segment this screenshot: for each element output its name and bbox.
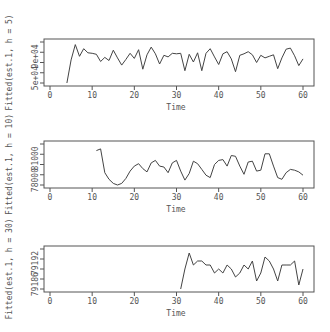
x-tick-label: 10 xyxy=(87,91,97,100)
x-tick-label: 0 xyxy=(48,193,53,202)
y-axis-label: Fitted(est.1, h = 10) xyxy=(5,114,14,215)
fitted-series-line xyxy=(96,149,303,185)
x-axis-label: Time xyxy=(166,205,185,214)
x-tick-label: 30 xyxy=(172,297,182,306)
fitted-series-line xyxy=(67,45,303,83)
plot-frame xyxy=(44,141,314,188)
plot-frame xyxy=(44,39,314,86)
panel-h30: 0102030405060Time7918679192Fitted(est.1,… xyxy=(5,218,314,319)
x-axis-label: Time xyxy=(166,103,185,112)
x-tick-label: 40 xyxy=(214,193,224,202)
y-axis-label: Fitted(est.1, h = 30) xyxy=(5,218,14,319)
x-tick-label: 20 xyxy=(130,91,140,100)
x-tick-label: 60 xyxy=(298,91,308,100)
x-tick-label: 20 xyxy=(130,297,140,306)
x-tick-label: 60 xyxy=(298,297,308,306)
x-tick-label: 60 xyxy=(298,193,308,202)
y-tick-label: 78000 xyxy=(31,168,40,192)
x-tick-label: 20 xyxy=(130,193,140,202)
panel-h5: 0102030405060Time5e+049e+04Fitted(est.1,… xyxy=(5,14,314,112)
y-tick-label: 81000 xyxy=(31,146,40,170)
fitted-series-line xyxy=(181,253,303,289)
x-axis-label: Time xyxy=(166,309,185,318)
x-tick-label: 50 xyxy=(256,91,266,100)
x-tick-label: 50 xyxy=(256,297,266,306)
x-tick-label: 30 xyxy=(172,91,182,100)
y-axis-label: Fitted(est.1, h = 5) xyxy=(5,14,14,110)
y-tick-label: 5e+04 xyxy=(31,66,40,90)
figure: 0102030405060Time5e+049e+04Fitted(est.1,… xyxy=(0,0,330,332)
x-tick-label: 40 xyxy=(214,297,224,306)
x-tick-label: 10 xyxy=(87,193,97,202)
x-tick-label: 10 xyxy=(87,297,97,306)
y-tick-label: 9e+04 xyxy=(31,44,40,68)
y-tick-label: 79192 xyxy=(31,251,40,275)
x-tick-label: 0 xyxy=(48,91,53,100)
x-tick-label: 50 xyxy=(256,193,266,202)
x-tick-label: 40 xyxy=(214,91,224,100)
panel-h10: 0102030405060Time7800081000Fitted(est.1,… xyxy=(5,114,314,215)
x-tick-label: 30 xyxy=(172,193,182,202)
x-tick-label: 0 xyxy=(48,297,53,306)
